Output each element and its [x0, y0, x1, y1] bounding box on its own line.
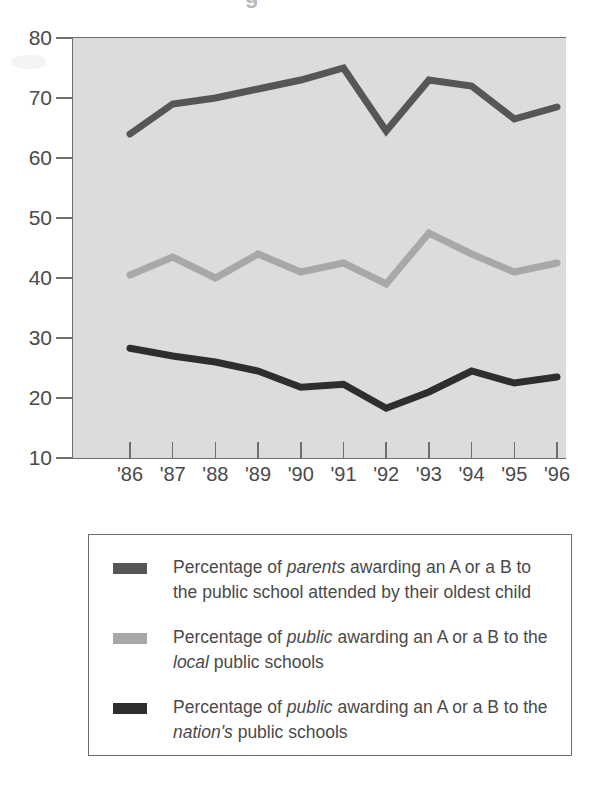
x-tick-label: '91 [322, 464, 366, 484]
y-tick-label: 50 [8, 207, 52, 228]
legend-swatch-public-local [113, 633, 147, 644]
y-tick [56, 97, 73, 99]
series-lines [73, 38, 566, 458]
legend: Percentage of parents awarding an A or a… [88, 534, 572, 756]
y-tick [56, 277, 73, 279]
x-tick [172, 442, 174, 458]
series-line-public-local-schools [130, 233, 557, 284]
x-tick [514, 442, 516, 458]
y-tick-label: 40 [8, 267, 52, 288]
y-tick-label: 80 [8, 27, 52, 48]
x-tick [215, 442, 217, 458]
x-tick-label: '96 [535, 464, 579, 484]
y-tick-label: 60 [8, 147, 52, 168]
x-tick-label: '93 [407, 464, 451, 484]
legend-swatch-parents [113, 563, 147, 574]
y-tick [56, 457, 73, 459]
plot-area [73, 38, 566, 458]
legend-label-public-local: Percentage of public awarding an A or a … [173, 625, 557, 675]
y-tick-label: 10 [8, 447, 52, 468]
x-tick-label: '88 [193, 464, 237, 484]
x-tick-label: '86 [108, 464, 152, 484]
y-tick [56, 397, 73, 399]
legend-swatch-public-nation [113, 703, 147, 714]
x-tick-label: '87 [151, 464, 195, 484]
y-tick [56, 157, 73, 159]
x-tick-label: '89 [236, 464, 280, 484]
x-tick [129, 442, 131, 458]
x-tick-label: '94 [450, 464, 494, 484]
legend-item-parents: Percentage of parents awarding an A or a… [113, 555, 557, 605]
series-line-parents-oldest-child [130, 68, 557, 134]
legend-item-public-nation: Percentage of public awarding an A or a … [113, 695, 557, 745]
y-tick [56, 217, 73, 219]
y-tick-label: 70 [8, 87, 52, 108]
x-tick-label: '92 [364, 464, 408, 484]
x-tick [428, 442, 430, 458]
legend-label-parents: Percentage of parents awarding an A or a… [173, 555, 557, 605]
x-tick-label: '95 [492, 464, 536, 484]
legend-label-public-nation: Percentage of public awarding an A or a … [173, 695, 557, 745]
y-tick [56, 37, 73, 39]
x-tick [343, 442, 345, 458]
x-tick [385, 442, 387, 458]
y-tick-label: 20 [8, 387, 52, 408]
y-tick [56, 337, 73, 339]
x-tick [471, 442, 473, 458]
x-tick [300, 442, 302, 458]
x-tick [556, 442, 558, 458]
y-tick-label: 30 [8, 327, 52, 348]
x-tick-label: '90 [279, 464, 323, 484]
series-line-public-nations-schools [130, 348, 557, 408]
x-tick [257, 442, 259, 458]
line-chart: 1020304050607080 '86'87'88'89'90'91'92'9… [0, 0, 594, 500]
legend-item-public-local: Percentage of public awarding an A or a … [113, 625, 557, 675]
